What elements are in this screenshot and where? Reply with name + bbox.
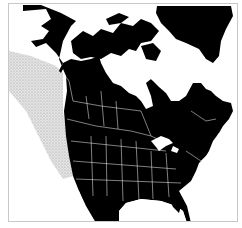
map-frame	[8, 3, 238, 222]
north-america-map	[9, 4, 238, 222]
mainland-landmass	[59, 56, 233, 222]
greenland-landmass	[156, 6, 233, 63]
range-area	[9, 51, 73, 179]
